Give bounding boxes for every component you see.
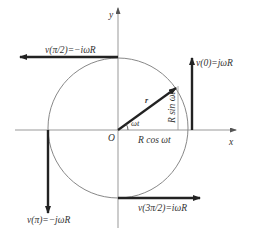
sin-projection-label: R sin ωt [167,92,177,124]
cos-projection-label: R cos ωt [137,135,171,145]
velocity-label-pi-2: v(π/2)=−iωR [45,45,96,56]
x-axis-label: x [228,137,234,147]
angle-label: ωt [131,118,140,128]
velocity-label-pi: v(π)=−jωR [27,215,70,226]
radius-vector-label: r [145,96,149,105]
angle-arc [126,124,128,130]
y-axis-label: y [108,10,114,20]
circular-motion-diagram: y x O ωt r R cos ωt R sin ωt v(0)=jωR v(… [0,0,253,245]
velocity-label-0: v(0)=jωR [196,58,233,69]
origin-label: O [108,133,115,143]
velocity-label-3pi-2: v(3π/2)=iωR [138,203,187,214]
